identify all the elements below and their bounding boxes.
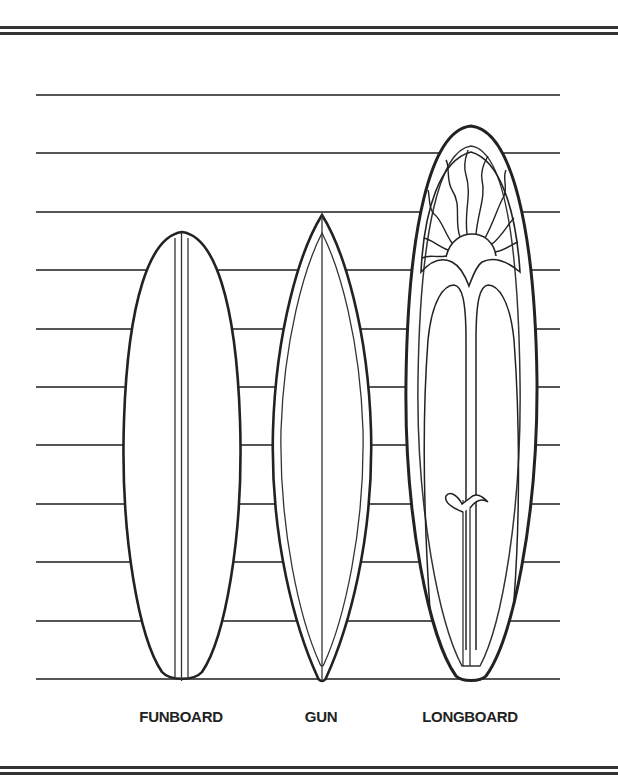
bottom-rule-outer [0, 766, 618, 769]
surfboards-illustration [0, 0, 618, 778]
gun-illustration [273, 215, 371, 681]
funboard-illustration [123, 232, 240, 681]
longboard-label: LONGBOARD [422, 708, 518, 725]
bottom-rule-inner [0, 772, 618, 775]
funboard-label: FUNBOARD [139, 708, 222, 725]
longboard-illustration [406, 126, 537, 681]
gun-label: GUN [305, 708, 337, 725]
